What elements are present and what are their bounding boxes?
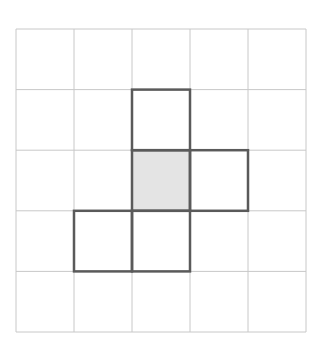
- outlined-cell: [132, 211, 190, 272]
- outlined-cell: [74, 211, 132, 272]
- shaded-cell: [132, 150, 190, 211]
- outlined-cell: [190, 150, 248, 211]
- outlined-cell: [132, 90, 190, 151]
- grid-diagram: [0, 0, 324, 355]
- outlined-shape: [74, 90, 248, 272]
